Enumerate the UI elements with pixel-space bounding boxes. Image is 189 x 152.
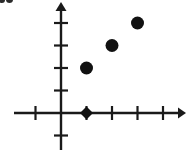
data-point-3 [131, 17, 144, 30]
axes-group [14, 2, 186, 150]
y-axis-arrowhead [56, 2, 67, 11]
data-point-diamond-on-axis [80, 107, 93, 120]
x-axis-arrowhead [178, 108, 186, 119]
data-points-group [80, 17, 144, 120]
scatter-plot-figure [0, 0, 189, 152]
coordinate-plane [0, 0, 189, 152]
data-point-1 [80, 62, 93, 75]
data-point-2 [106, 39, 119, 52]
